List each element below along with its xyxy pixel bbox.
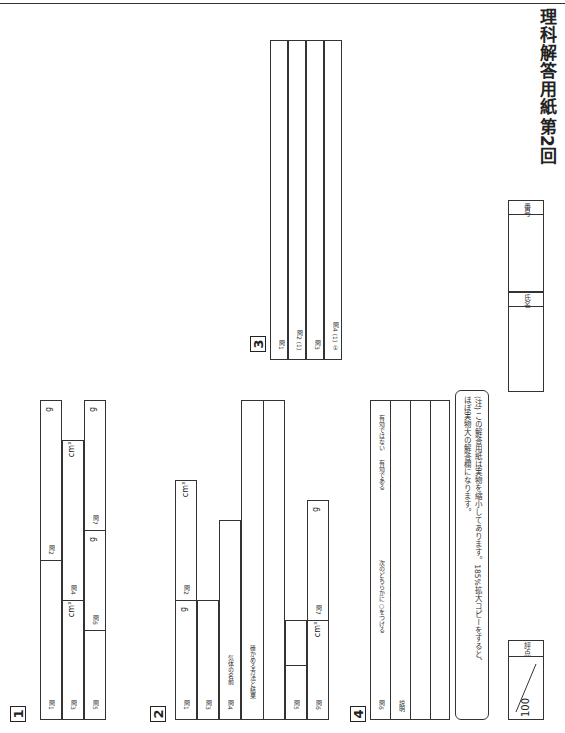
sec3-q2_1-label: 問2 (1) bbox=[295, 330, 304, 350]
sec1-g-label: g bbox=[88, 407, 97, 412]
sec4-q6_b-label: 有効ではない bbox=[377, 415, 386, 451]
section-3-number: 3 bbox=[250, 336, 266, 352]
sec1-cm3-label: cm³ bbox=[67, 602, 76, 617]
s3-q4[interactable] bbox=[324, 40, 342, 360]
sec4-q6-label: 問6 bbox=[377, 700, 386, 710]
sec1-q1-label: 問1 bbox=[47, 700, 56, 710]
s3-q2[interactable] bbox=[288, 40, 306, 360]
top-rule bbox=[0, 0, 565, 4]
sec1-cm3-label: cm³ bbox=[67, 442, 76, 457]
sec2-q3-label: 問3 bbox=[204, 700, 213, 710]
sheet-round: 第2回 bbox=[535, 118, 560, 164]
sec1-q5-label: 問5 bbox=[91, 700, 100, 710]
sec1-g-label: g bbox=[88, 537, 97, 542]
sec4-expl-label: 説明 bbox=[397, 700, 406, 712]
sec1-q2-label: 問2 bbox=[47, 545, 56, 555]
sec3-q1-label: 問1 bbox=[277, 340, 286, 350]
s3-q3[interactable] bbox=[306, 40, 324, 360]
sec4-q6_text-label: 次のどちらかに○をつける bbox=[377, 560, 386, 633]
sec2-q5-label: 問5 bbox=[292, 700, 301, 710]
section-4-number: 4 bbox=[350, 706, 366, 722]
s1-q3-q4[interactable] bbox=[62, 440, 84, 720]
section-2-number: 2 bbox=[150, 706, 166, 722]
score-label: 評点 bbox=[522, 642, 532, 656]
sec2-q4_check-label: 確かめる方法と結果 bbox=[248, 645, 257, 699]
sec1-q6-label: 問6 bbox=[91, 615, 100, 625]
sec2-cm3-label: cm³ bbox=[181, 482, 190, 497]
sec1-q7-label: 問7 bbox=[91, 515, 100, 525]
sheet-title: 理科解答用紙 bbox=[535, 8, 560, 116]
sec1-g-label: g bbox=[44, 407, 53, 412]
sec2-g-label: g bbox=[311, 507, 320, 512]
sec2-q1-label: 問1 bbox=[182, 700, 191, 710]
sec1-q4-label: 問4 bbox=[69, 585, 78, 595]
section-1-number: 1 bbox=[10, 706, 26, 722]
name-label: 氏名 bbox=[522, 294, 532, 308]
s3-q1[interactable] bbox=[270, 40, 288, 360]
sec4-q6_a-label: 有効である bbox=[377, 460, 386, 490]
sec2-q4-label: 問4 bbox=[226, 700, 235, 710]
note-line1: (注) この解答用紙は実物を縮小してあります。185%拡大コピーをすると、 bbox=[472, 396, 483, 666]
note-line2: ほぼ実物大の解答欄になります。 bbox=[461, 396, 472, 516]
sec2-q6-label: 問6 bbox=[314, 700, 323, 710]
sec2-g-label: g bbox=[179, 607, 188, 612]
sec2-q7-label: 問7 bbox=[314, 605, 323, 615]
sec3-q3-label: 問3 bbox=[313, 340, 322, 350]
sec3-q4_1-label: 問4 (1) ① bbox=[331, 322, 340, 351]
sec1-q3-label: 問3 bbox=[69, 700, 78, 710]
sec2-q2-label: 問2 bbox=[182, 585, 191, 595]
sec2-cm3-label: cm³ bbox=[313, 622, 322, 637]
sec2-q4_gas-label: 気体の名前 bbox=[226, 655, 235, 685]
score-max: 100 bbox=[520, 698, 531, 717]
s1-q5-q7[interactable] bbox=[84, 400, 106, 720]
number-label: 番号 bbox=[522, 203, 532, 217]
s2-q4-gas[interactable] bbox=[219, 520, 241, 720]
